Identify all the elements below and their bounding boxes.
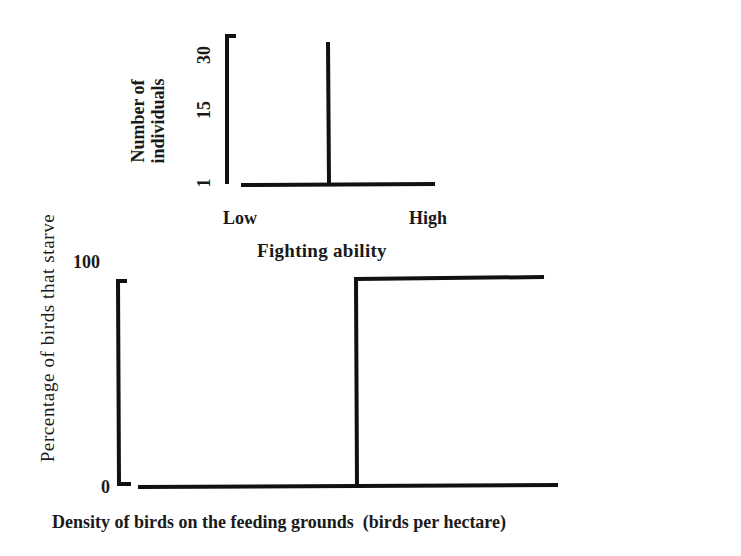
top-x-tick-high: High [409, 209, 447, 227]
top-spike [328, 42, 329, 185]
bottom-y-axis [118, 281, 131, 484]
top-y-label-line2: individuals [149, 78, 167, 163]
top-baseline [241, 184, 435, 185]
chart-lines [0, 0, 741, 556]
bottom-y-tick-100: 100 [73, 253, 100, 271]
figure: Number of individuals 30 15 1 Low High F… [0, 0, 741, 556]
bottom-baseline [138, 485, 558, 487]
top-x-tick-low: Low [223, 209, 257, 227]
top-y-label-line1: Number of [129, 79, 147, 162]
bottom-y-axis-label: Percentage of birds that starve [38, 214, 57, 463]
bottom-step [356, 277, 544, 485]
top-y-tick-30: 30 [195, 46, 213, 64]
top-y-axis [227, 36, 236, 184]
bottom-y-tick-0: 0 [101, 478, 110, 496]
top-y-tick-1: 1 [195, 179, 213, 188]
bottom-x-axis-label: Density of birds on the feeding grounds … [52, 513, 506, 531]
top-x-axis-label: Fighting ability [257, 241, 387, 260]
top-y-tick-15: 15 [195, 101, 213, 119]
